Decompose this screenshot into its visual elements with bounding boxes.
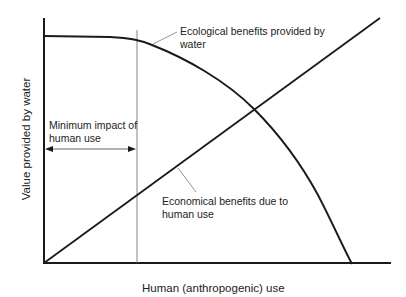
economical-label-line2: human use (162, 208, 288, 221)
x-axis-label: Human (anthropogenic) use (142, 282, 285, 294)
minimum-impact-label-line2: human use (49, 132, 137, 145)
y-axis-label: Value provided by water (20, 77, 32, 201)
ecological-leader-line (153, 32, 177, 44)
economical-leader-line (178, 168, 196, 192)
arrow-right-icon (128, 146, 136, 152)
ecological-benefits-label: Ecological benefits provided by water (180, 25, 325, 50)
minimum-impact-label: Minimum impact of human use (49, 119, 137, 144)
ecological-label-line2: water (180, 38, 325, 51)
economical-label-line1: Economical benefits due to (162, 195, 288, 208)
arrow-left-icon (45, 146, 53, 152)
economical-benefits-label: Economical benefits due to human use (162, 195, 288, 220)
minimum-impact-label-line1: Minimum impact of (49, 119, 137, 132)
ecological-label-line1: Ecological benefits provided by (180, 25, 325, 38)
